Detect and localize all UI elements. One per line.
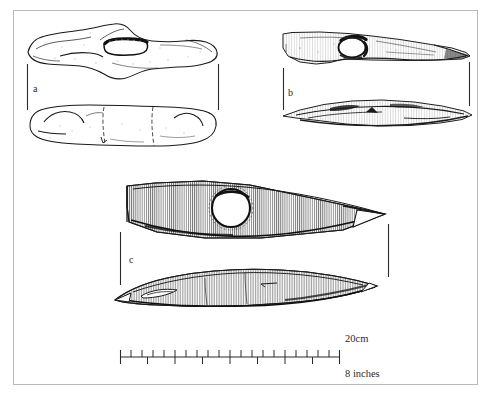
- scale-bar-imperial-label: 8 inches: [345, 369, 380, 380]
- specimen-label-c: c: [129, 255, 133, 265]
- figure-frame: [13, 10, 478, 385]
- specimen-label-a: a: [33, 84, 37, 94]
- scale-bar-metric-label: 20cm: [345, 334, 368, 345]
- figure-plate: a b c 20cm 8 inches: [0, 0, 493, 406]
- page-bleed-text: [18, 399, 458, 406]
- specimen-label-b: b: [288, 88, 293, 98]
